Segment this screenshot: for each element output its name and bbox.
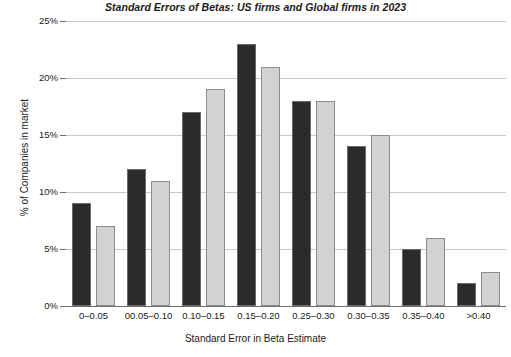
bar-us-firms — [347, 146, 366, 306]
x-tick-label: 0.30–0.35 — [341, 310, 396, 321]
x-tick-label: >0.40 — [451, 310, 506, 321]
bar-us-firms — [127, 169, 146, 306]
chart-canvas: Standard Errors of Betas: US firms and G… — [0, 0, 511, 357]
bar-group — [237, 21, 280, 306]
bar-group — [402, 21, 445, 306]
y-tick-label: 0% — [44, 300, 58, 311]
bar-us-firms — [237, 44, 256, 306]
bar-us-firms — [72, 203, 91, 306]
bar-global-firms — [481, 272, 500, 306]
bar-us-firms — [457, 283, 476, 306]
bar-group — [347, 21, 390, 306]
bar-global-firms — [96, 226, 115, 306]
y-tick-label: 5% — [44, 243, 58, 254]
bar-global-firms — [151, 181, 170, 306]
x-tick-label: 0–0.05 — [66, 310, 121, 321]
y-tick-label: 10% — [39, 186, 58, 197]
x-axis-baseline — [66, 306, 506, 307]
bar-group — [72, 21, 115, 306]
y-tick-label: 15% — [39, 129, 58, 140]
plot-area — [66, 21, 506, 306]
bar-group — [127, 21, 170, 306]
bar-group — [457, 21, 500, 306]
y-axis-title: % of Companies in market — [19, 48, 30, 268]
x-tick-label: 0.25–0.30 — [286, 310, 341, 321]
bar-us-firms — [402, 249, 421, 306]
bar-global-firms — [206, 89, 225, 306]
x-tick-label: 0.10–0.15 — [176, 310, 231, 321]
bar-global-firms — [261, 67, 280, 306]
bar-group — [292, 21, 335, 306]
x-axis-tick-labels: 0–0.0500.05–0.100.10–0.150.15–0.200.25–0… — [66, 310, 506, 326]
bar-us-firms — [182, 112, 201, 306]
x-tick-label: 0.35–0.40 — [396, 310, 451, 321]
bar-global-firms — [426, 238, 445, 306]
x-tick-label: 0.15–0.20 — [231, 310, 286, 321]
x-tick-label: 00.05–0.10 — [121, 310, 176, 321]
x-axis-title: Standard Error in Beta Estimate — [0, 333, 511, 344]
y-tick-label: 20% — [39, 72, 58, 83]
bar-global-firms — [371, 135, 390, 306]
y-tick-label: 25% — [39, 15, 58, 26]
bar-us-firms — [292, 101, 311, 306]
y-axis-tick-labels: 0%5%10%15%20%25% — [0, 0, 62, 357]
chart-title: Standard Errors of Betas: US firms and G… — [0, 1, 511, 13]
bar-group — [182, 21, 225, 306]
bar-global-firms — [316, 101, 335, 306]
